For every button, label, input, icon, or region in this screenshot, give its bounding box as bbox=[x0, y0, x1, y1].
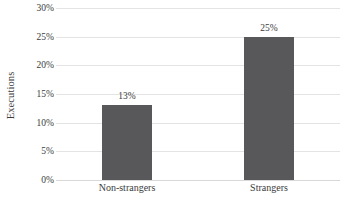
category-label: Non-strangers bbox=[99, 182, 156, 193]
y-tick-label: 5% bbox=[41, 146, 54, 156]
y-tick-label: 10% bbox=[37, 118, 54, 128]
gridline bbox=[56, 180, 340, 181]
bars-layer: 13%25% bbox=[56, 8, 340, 180]
y-axis-title-label: Executions bbox=[6, 71, 17, 119]
bar-chart: Executions 0%5%10%15%20%25%30% 13%25% No… bbox=[0, 0, 356, 214]
y-axis-title: Executions bbox=[0, 0, 22, 190]
bar-group: 13% bbox=[56, 8, 198, 180]
y-axis-tick-labels: 0%5%10%15%20%25%30% bbox=[20, 8, 54, 180]
bar-group: 25% bbox=[198, 8, 340, 180]
bar bbox=[102, 105, 152, 180]
y-tick-label: 0% bbox=[41, 175, 54, 185]
y-tick-label: 20% bbox=[37, 60, 54, 70]
bar-value-label: 25% bbox=[260, 23, 277, 33]
y-tick-label: 25% bbox=[37, 32, 54, 42]
y-tick-label: 30% bbox=[37, 3, 54, 13]
category-label: Strangers bbox=[250, 182, 288, 193]
x-axis-category-labels: Non-strangersStrangers bbox=[56, 182, 340, 202]
y-tick-label: 15% bbox=[37, 89, 54, 99]
plot-area: 13%25% bbox=[56, 8, 340, 180]
bar-value-label: 13% bbox=[118, 91, 135, 101]
bar bbox=[244, 37, 294, 180]
